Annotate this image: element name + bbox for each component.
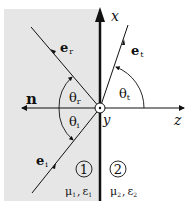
medium-1-number: 1 [80,162,88,177]
medium-2-properties: μ2,ε2 [110,185,137,198]
medium-1-properties: μ1,ε1 [65,185,92,198]
medium-2-number: 2 [114,162,122,177]
reflection-refraction-diagram: x y z n er ei et θr θi θt 1 2 μ1,ε1 μ2,ε… [0,0,191,204]
transmitted-ray-label: et [131,43,144,59]
theta-t-label: θt [119,86,131,102]
x-axis-label: x [111,8,119,24]
normal-vector-label: n [26,90,37,108]
y-axis-dot [99,107,101,109]
y-axis-label: y [102,112,111,127]
z-axis-label: z [173,112,182,128]
